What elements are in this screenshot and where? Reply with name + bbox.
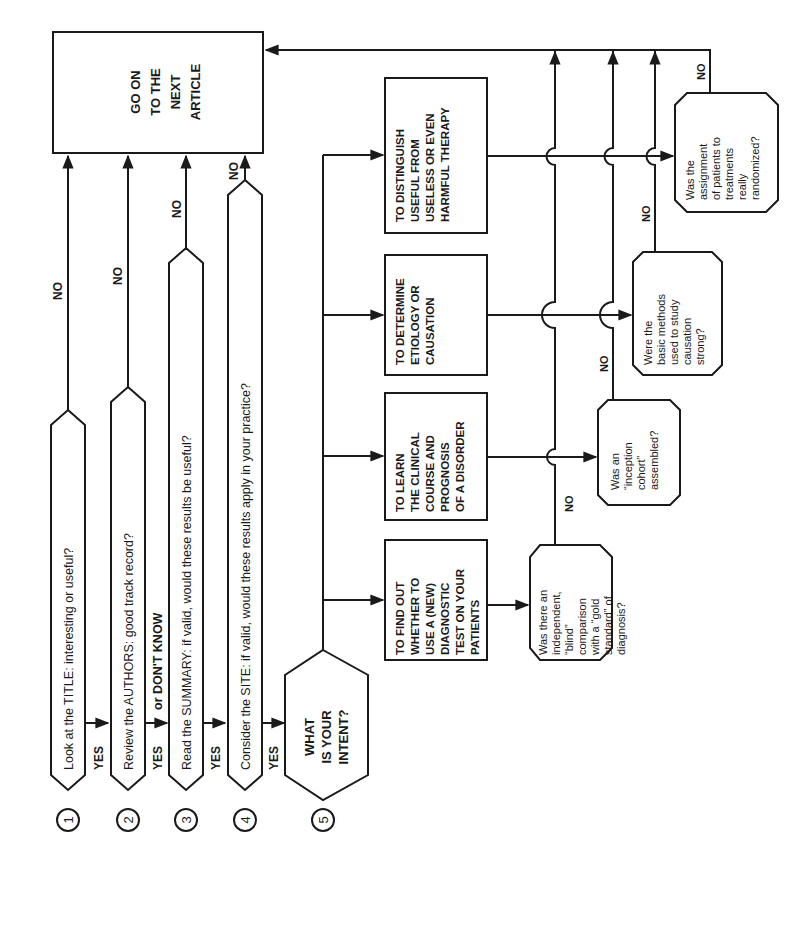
step-4-number: 4 <box>238 816 253 823</box>
intent-therapy-box: TO DISTINGUISH USEFUL FROM USELESS OR EV… <box>385 78 487 233</box>
question-therapy-line: assignment <box>697 144 709 200</box>
step-3-no-label: NO <box>170 200 184 218</box>
intent-diagnostic-line: PATIENTS <box>469 600 481 655</box>
question-prognosis-line: assembled? <box>648 431 660 490</box>
step-4-site-decision: Consider the SITE: if valid, would these… <box>227 156 284 831</box>
return-junction-arrows <box>555 52 655 70</box>
flowchart-canvas: GO ON TO THE NEXT ARTICLE Look at the TI… <box>0 0 805 927</box>
diagnostic-no-return-line <box>542 50 555 545</box>
intent-therapy-line: TO DISTINGUISH <box>394 129 406 222</box>
question-prognosis-line: cohort” <box>635 455 647 490</box>
intent-line: WHAT <box>302 718 317 756</box>
terminal-line: GO ON <box>128 70 143 113</box>
therapy-no-label: NO <box>695 63 707 80</box>
intent-therapy-line: USELESS OR EVEN <box>424 113 436 222</box>
step-4-no-label: NO <box>227 162 241 180</box>
question-etiology-line: Were the <box>642 321 654 365</box>
step-2-yes-label: YES <box>151 746 165 770</box>
question-diagnostic-line: with a “gold <box>589 599 601 656</box>
step-1-text: Look at the TITLE: interesting or useful… <box>62 548 76 770</box>
step-2-text: Review the AUTHORS: good track record? <box>122 533 136 770</box>
question-therapy-line: of patients to <box>710 137 722 200</box>
intent-prognosis-line: OF A DISORDER <box>454 421 466 512</box>
question-therapy-line: really <box>736 173 748 200</box>
intent-branch-connectors <box>323 155 383 650</box>
intent-etiology-box: TO DETERMINE ETIOLOGY OR CAUSATION <box>385 255 487 375</box>
question-therapy-line: randomized? <box>749 136 761 200</box>
question-therapy-line: Was the <box>684 160 696 200</box>
question-etiology-methods-strong: Were the basic methods used to study cau… <box>633 252 722 375</box>
intent-prognosis-line: PROGNOSIS <box>439 442 451 512</box>
step-3-yes-label: YES <box>209 746 223 770</box>
intent-therapy-line: USEFUL FROM <box>409 139 421 222</box>
step-2-no-label: NO <box>111 267 125 285</box>
intent-line: INTENT? <box>336 710 351 765</box>
terminal-go-on-next-article: GO ON TO THE NEXT ARTICLE <box>53 32 263 153</box>
prognosis-no-return-line <box>600 50 613 400</box>
intent-diagnostic-line: TO FIND OUT <box>394 582 406 655</box>
question-etiology-line: basic methods <box>655 294 667 365</box>
question-diagnostic-line: “blind” <box>563 624 575 655</box>
terminal-line: NEXT <box>168 75 183 110</box>
step-1-number: 1 <box>61 816 76 823</box>
question-diagnostic-blind-comparison: Was there an independent, “blind” compar… <box>530 545 627 660</box>
diagnostic-no-label: NO <box>563 495 575 512</box>
step-2-dont-know-label: or DON'T KNOW <box>151 612 165 710</box>
question-diagnostic-line: diagnosis? <box>615 602 627 655</box>
step-5-intent-decision: WHAT IS YOUR INTENT? 5 <box>285 650 368 831</box>
intent-prognosis-line: THE CLINICAL <box>409 432 421 512</box>
question-etiology-line: strong? <box>694 328 706 365</box>
prognosis-no-label: NO <box>598 355 610 372</box>
terminal-line: ARTICLE <box>188 64 203 121</box>
step-3-text: Read the SUMMARY: if valid, would these … <box>180 435 194 770</box>
etiology-no-label: NO <box>640 205 652 222</box>
intent-etiology-line: ETIOLOGY OR <box>409 285 421 365</box>
step-3-summary-decision: Read the SUMMARY: if valid, would these … <box>169 156 225 831</box>
intent-therapy-line: HARMFUL THERAPY <box>439 107 451 222</box>
question-prognosis-line: Was an <box>609 453 621 490</box>
step-1-no-label: NO <box>51 282 65 300</box>
intent-diagnostic-line: TEST ON YOUR <box>454 568 466 655</box>
question-diagnostic-line: comparison <box>576 598 588 655</box>
intent-diagnostic-line: WHETHER TO <box>409 578 421 655</box>
intent-prognosis-line: TO LEARN <box>394 453 406 512</box>
intent-line: IS YOUR <box>319 710 334 764</box>
intent-prognosis-box: TO LEARN THE CLINICAL COURSE AND PROGNOS… <box>385 393 487 520</box>
step-4-text: Consider the SITE: if valid, would these… <box>239 383 253 770</box>
terminal-line: TO THE <box>148 68 163 116</box>
question-prognosis-inception-cohort: Was an “inception cohort” assembled? <box>598 400 680 505</box>
intent-etiology-line: TO DETERMINE <box>394 278 406 365</box>
intent-diagnostic-line: DIAGNOSTIC <box>439 583 451 655</box>
question-diagnostic-line: standard” of <box>602 595 614 655</box>
step-2-number: 2 <box>121 816 136 823</box>
step-1-yes-label: YES <box>92 746 106 770</box>
intent-prognosis-line: COURSE AND <box>424 435 436 512</box>
intent-diagnostic-line: USE A (NEW) <box>424 583 436 655</box>
question-etiology-line: used to study <box>668 299 680 365</box>
step-2-authors-decision: Review the AUTHORS: good track record? N… <box>111 156 167 831</box>
question-diagnostic-line: independent, <box>550 591 562 655</box>
step-3-number: 3 <box>179 816 194 823</box>
step-1-title-decision: Look at the TITLE: interesting or useful… <box>51 156 108 831</box>
step-5-number: 5 <box>316 816 331 823</box>
question-therapy-randomized: Was the assignment of patients to treatm… <box>675 93 778 212</box>
intent-etiology-line: CAUSATION <box>424 297 436 365</box>
question-etiology-line: causation <box>681 318 693 365</box>
intent-diagnostic-box: TO FIND OUT WHETHER TO USE A (NEW) DIAGN… <box>385 540 487 660</box>
step-4-yes-label: YES <box>267 746 281 770</box>
question-therapy-line: treatments <box>723 148 735 200</box>
question-diagnostic-line: Was there an <box>537 590 549 655</box>
question-prognosis-line: “inception <box>622 442 634 490</box>
